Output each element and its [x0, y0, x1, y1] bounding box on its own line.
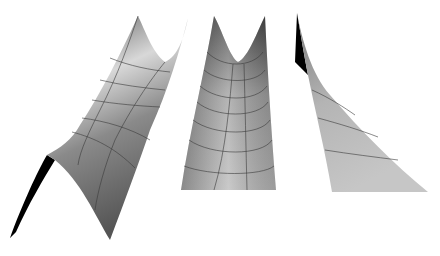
left-surface	[10, 16, 188, 240]
left-surface-underside	[10, 155, 55, 238]
right-surface	[295, 13, 428, 192]
right-surface-underside	[295, 13, 308, 75]
left-surface-body	[47, 16, 188, 240]
figure-canvas	[0, 0, 440, 256]
surfaces-figure	[0, 0, 440, 256]
middle-surface	[181, 16, 276, 190]
right-surface-body	[297, 13, 428, 192]
